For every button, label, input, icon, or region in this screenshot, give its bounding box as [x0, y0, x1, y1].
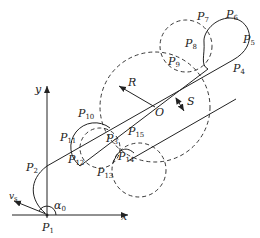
point-label-p15: P15: [128, 126, 144, 139]
point-label-p2: P2: [26, 162, 38, 175]
point-label-p9: P9: [168, 56, 180, 69]
x-axis-label: x: [121, 211, 127, 222]
radius-label: R: [128, 77, 136, 88]
point-label-p13: P13: [97, 167, 113, 180]
radius-arrow: [119, 86, 155, 107]
velocity-label: vs: [9, 192, 18, 203]
point-p1-dot: [46, 214, 49, 217]
point-label-p12: P12: [68, 154, 84, 167]
point-label-p10: P10: [78, 108, 94, 121]
point-label-p4: P4: [233, 63, 245, 76]
angle-label: α0: [54, 200, 66, 213]
velocity-vector: [14, 201, 46, 214]
point-label-p8: P8: [185, 38, 197, 51]
point-label-p5: P5: [243, 34, 255, 47]
path-planning-diagram: y x vs α0 R O S P1 P2 P3 P4 P5 P6 P7 P8 …: [0, 0, 260, 238]
spacing-label: S: [187, 96, 195, 107]
point-label-p7: P7: [197, 11, 209, 24]
spacing-arrow: [176, 98, 184, 111]
lower-track-line: [47, 60, 233, 166]
point-label-p11: P11: [60, 132, 76, 145]
diagram-graphics: [0, 0, 260, 238]
point-label-p14: P14: [118, 151, 134, 164]
point-label-p3: P3: [106, 133, 118, 146]
point-label-p1: P1: [42, 222, 54, 235]
point-label-p6: P6: [226, 9, 238, 22]
center-label: O: [155, 107, 164, 118]
y-axis-label: y: [35, 84, 41, 95]
